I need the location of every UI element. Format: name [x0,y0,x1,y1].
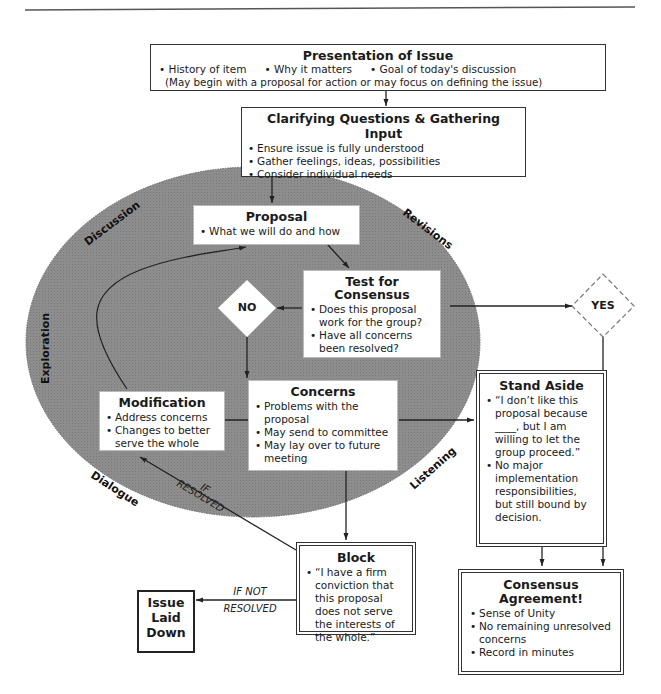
stand-aside-bullet: “I don’t like this proposal because ____… [486,394,597,459]
presentation-bullet: • Why it matters [264,63,352,76]
issue-laid-down-line3: Down [141,625,191,640]
if-not-resolved-label: IF NOT RESOLVED [210,586,290,614]
consensus-bullet: No remaining unresolved concerns [470,620,612,646]
stand-aside-box: Stand Aside “I don’t like this proposal … [476,370,607,547]
block-bullet: “I have a firm conviction that this prop… [306,566,406,644]
stand-aside-title: Stand Aside [486,378,597,393]
clarifying-bullet: Ensure issue is fully understood [248,142,519,155]
presentation-bullet: • Goal of today's discussion [370,63,516,76]
clarifying-title: Clarifying Questions & Gathering Input [248,111,519,141]
concerns-bullet: Problems with the proposal [255,400,391,426]
block-title: Block [306,550,406,565]
modification-box: Modification Address concerns Changes to… [99,391,225,451]
clarifying-questions-box: Clarifying Questions & Gathering Input E… [241,107,526,177]
presentation-of-issue-box: Presentation of Issue • History of item … [150,44,606,91]
consensus-title-line1: Consensus [470,577,612,592]
consensus-bullet: Sense of Unity [470,607,612,620]
ring-label-exploration: Exploration [39,313,52,384]
top-rule [25,7,635,10]
presentation-title: Presentation of Issue [159,48,597,63]
if-not-resolved-label-line2: RESOLVED [210,603,290,614]
issue-laid-down-line2: Laid [141,610,191,625]
consensus-bullet: Record in minutes [470,646,612,659]
test-for-consensus-box: Test for Consensus Does this proposal wo… [303,270,441,358]
proposal-title: Proposal [200,209,353,224]
stand-aside-bullet: No major implementation responsibilities… [486,459,597,524]
consensus-title-line2: Agreement! [470,591,612,606]
proposal-box: Proposal What we will do and how [193,205,360,245]
concerns-box: Concerns Problems with the proposal May … [248,380,398,471]
concerns-bullet: May lay over to future meeting [255,439,391,465]
clarifying-bullet: Consider individual needs [248,168,519,181]
presentation-bullet: • History of item [159,63,246,76]
clarifying-bullet: Gather feelings, ideas, possibilities [248,155,519,168]
consensus-agreement-box: Consensus Agreement! Sense of Unity No r… [461,572,621,672]
no-decision-label: NO [227,301,267,314]
concerns-bullet: May send to committee [255,426,391,439]
block-box: Block “I have a firm conviction that thi… [296,542,416,635]
test-bullet: Have all concerns been resolved? [310,329,434,355]
modification-bullet: Changes to better serve the whole [106,424,218,450]
test-bullet: Does this proposal work for the group? [310,303,434,329]
issue-laid-down-box: Issue Laid Down [137,590,195,653]
if-not-resolved-label-line1: IF NOT [210,586,290,597]
presentation-note: (May begin with a proposal for action or… [159,76,597,89]
issue-laid-down-line1: Issue [141,595,191,610]
test-title-line2: Consensus [310,287,434,302]
modification-bullet: Address concerns [106,411,218,424]
proposal-bullet: What we will do and how [200,225,353,238]
yes-decision-label: YES [583,299,623,312]
modification-title: Modification [106,395,218,410]
concerns-title: Concerns [255,384,391,399]
